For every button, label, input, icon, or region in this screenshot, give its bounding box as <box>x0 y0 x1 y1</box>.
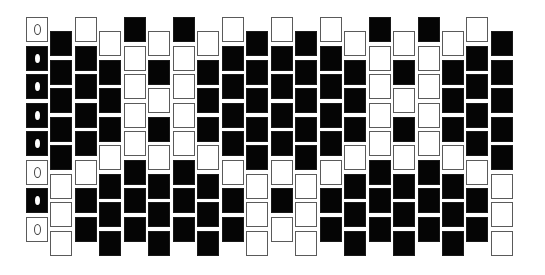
bead-white <box>222 17 244 42</box>
bead-white <box>99 31 121 56</box>
bead-white <box>246 202 268 227</box>
bead-white <box>466 17 488 42</box>
bead-black <box>369 217 391 242</box>
bead-black <box>222 131 244 156</box>
bead-white <box>295 231 317 256</box>
bead-white <box>344 145 366 170</box>
bead-white <box>148 88 170 113</box>
bead-white <box>466 160 488 185</box>
bead-black <box>26 46 48 71</box>
bead-white <box>99 145 121 170</box>
bead-white <box>393 88 415 113</box>
bead-white <box>491 231 513 256</box>
filled-dot-marker-icon <box>35 111 40 120</box>
bead-white <box>491 174 513 199</box>
bead-black <box>50 117 72 142</box>
bead-black <box>50 145 72 170</box>
bead-black <box>26 74 48 99</box>
filled-dot-marker-icon <box>35 54 40 63</box>
bead-black <box>75 74 97 99</box>
bead-white <box>26 217 48 242</box>
filled-dot-marker-icon <box>35 139 40 148</box>
bead-black <box>26 131 48 156</box>
bead-black <box>75 188 97 213</box>
bead-white <box>124 131 146 156</box>
bead-black <box>295 60 317 85</box>
bead-black <box>320 103 342 128</box>
bead-black <box>75 131 97 156</box>
bead-black <box>246 117 268 142</box>
bead-black <box>222 46 244 71</box>
bead-black <box>50 31 72 56</box>
bead-white <box>173 103 195 128</box>
bead-black <box>75 103 97 128</box>
bead-black <box>99 231 121 256</box>
bead-black <box>99 202 121 227</box>
bead-black <box>271 74 293 99</box>
bead-white <box>320 17 342 42</box>
bead-white <box>75 17 97 42</box>
bead-black <box>222 74 244 99</box>
bead-black <box>320 188 342 213</box>
bead-white <box>320 160 342 185</box>
bead-white <box>393 31 415 56</box>
bead-white <box>222 160 244 185</box>
bead-black <box>442 88 464 113</box>
bead-white <box>418 103 440 128</box>
filled-dot-marker-icon <box>35 82 40 91</box>
bead-white <box>124 46 146 71</box>
bead-black <box>75 46 97 71</box>
bead-black <box>148 231 170 256</box>
bead-black <box>466 74 488 99</box>
bead-black <box>418 17 440 42</box>
bead-black <box>491 145 513 170</box>
bead-black <box>442 117 464 142</box>
bead-white <box>344 31 366 56</box>
bead-black <box>295 31 317 56</box>
bead-black <box>295 117 317 142</box>
bead-white <box>173 74 195 99</box>
bead-black <box>197 202 219 227</box>
bead-black <box>369 188 391 213</box>
bead-black <box>344 231 366 256</box>
bead-black <box>320 74 342 99</box>
bead-white <box>148 31 170 56</box>
open-circle-marker-icon <box>34 24 41 35</box>
bead-white <box>271 17 293 42</box>
bead-black <box>344 117 366 142</box>
bead-black <box>197 174 219 199</box>
bead-white <box>197 31 219 56</box>
bead-white <box>26 17 48 42</box>
bead-white <box>50 202 72 227</box>
bead-white <box>50 174 72 199</box>
bead-pattern-grid <box>0 0 545 275</box>
bead-white <box>369 74 391 99</box>
bead-black <box>344 88 366 113</box>
bead-black <box>491 60 513 85</box>
bead-black <box>148 60 170 85</box>
bead-black <box>344 174 366 199</box>
bead-black <box>99 117 121 142</box>
bead-black <box>173 17 195 42</box>
bead-black <box>393 60 415 85</box>
bead-black <box>442 231 464 256</box>
bead-white <box>491 202 513 227</box>
bead-white <box>271 217 293 242</box>
bead-white <box>271 160 293 185</box>
bead-black <box>442 174 464 199</box>
bead-black <box>222 188 244 213</box>
bead-black <box>393 202 415 227</box>
bead-black <box>320 131 342 156</box>
bead-black <box>271 188 293 213</box>
bead-white <box>197 145 219 170</box>
bead-black <box>418 160 440 185</box>
bead-black <box>50 88 72 113</box>
bead-black <box>75 217 97 242</box>
bead-black <box>344 202 366 227</box>
bead-white <box>369 131 391 156</box>
bead-black <box>173 217 195 242</box>
bead-black <box>222 217 244 242</box>
bead-white <box>369 46 391 71</box>
bead-black <box>344 60 366 85</box>
bead-black <box>99 174 121 199</box>
